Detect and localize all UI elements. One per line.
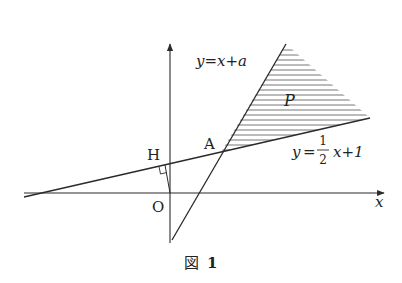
svg-text:=: = bbox=[303, 143, 316, 161]
line-x-plus-a bbox=[172, 44, 286, 240]
svg-text:y: y bbox=[291, 143, 301, 161]
coordinate-diagram: y=x+a P A H O x y = 1 2 x+1 図1 bbox=[0, 0, 402, 283]
line-half-x-plus-1 bbox=[24, 118, 370, 197]
label-line-half-x-plus-1: y = 1 2 x+1 bbox=[291, 134, 364, 167]
svg-text:2: 2 bbox=[319, 153, 327, 167]
svg-text:x+1: x+1 bbox=[333, 143, 364, 161]
label-x-axis: x bbox=[375, 193, 384, 211]
segment-oh bbox=[165, 165, 170, 193]
label-region-p: P bbox=[283, 91, 295, 110]
svg-text:1: 1 bbox=[319, 134, 327, 148]
label-point-h: H bbox=[147, 146, 160, 164]
label-point-a: A bbox=[203, 135, 215, 153]
figure-caption: 図1 bbox=[184, 254, 217, 272]
label-line-x-plus-a: y=x+a bbox=[195, 52, 247, 70]
label-origin: O bbox=[152, 198, 164, 216]
